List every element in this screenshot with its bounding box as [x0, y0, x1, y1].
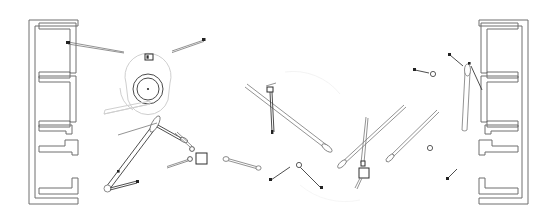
pointer-left-tip — [66, 41, 70, 44]
technical-drawing-svg — [0, 0, 557, 222]
drawing-canvas — [0, 0, 557, 222]
vertical-tube-brace-b-tip — [468, 62, 471, 65]
square-node-hub-a — [188, 157, 193, 162]
rod-short-c-tip — [446, 177, 449, 180]
dot-hub-upper-right — [430, 71, 435, 76]
main-arm-foot-tip — [136, 180, 139, 183]
dot-hub-upper-right-tip — [413, 68, 416, 71]
vertical-tube-top-cap — [465, 64, 471, 76]
rod-short-b-hub — [296, 162, 301, 167]
rod-lower-center-cap-b — [256, 166, 261, 170]
vertical-tube-brace-a-tip — [448, 53, 451, 56]
dot-hub-mid-right — [427, 145, 432, 150]
square-node-box — [196, 153, 207, 164]
long-diagonal-a-node — [267, 87, 273, 92]
square-node-hub-b — [190, 147, 195, 152]
fixture-center-point — [147, 88, 149, 90]
hanging-node-clip — [361, 161, 365, 166]
main-arm-pivot — [104, 185, 111, 192]
rod-short-a-tip — [269, 178, 272, 181]
rod-lower-center-cap — [223, 157, 229, 162]
hanging-node-box — [359, 168, 369, 178]
badge-marker — [145, 54, 153, 60]
main-arm-mid-tip — [117, 170, 120, 173]
pointer-upper-tip — [202, 38, 206, 41]
rod-short-b-tip — [320, 186, 323, 189]
badge-marker-fill — [147, 55, 149, 58]
badge-marker-outline — [145, 54, 153, 60]
long-diagonal-a-stem-tip — [271, 130, 273, 134]
canvas-background — [0, 0, 557, 222]
